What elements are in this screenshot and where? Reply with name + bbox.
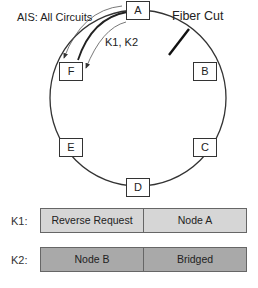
k2-label: K2:: [11, 254, 28, 266]
node-a: A: [126, 1, 150, 20]
k1-k2-label: K1, K2: [105, 36, 138, 48]
fiber-cut-slash-icon: [169, 29, 189, 55]
fiber-cut-label: Fiber Cut: [172, 9, 223, 23]
node-d: D: [126, 178, 150, 197]
k2-byte-bar: Node B Bridged: [40, 247, 247, 272]
ais-label: AIS: All Circuits: [17, 11, 92, 23]
node-f: F: [59, 62, 83, 81]
k2-node-cell: Node B: [41, 248, 143, 271]
node-e: E: [59, 138, 83, 157]
k1-label: K1:: [11, 215, 28, 227]
node-b: B: [193, 62, 217, 81]
k1-byte-bar: Reverse Request Node A: [40, 208, 247, 233]
k2-status-cell: Bridged: [143, 248, 246, 271]
k1-request-cell: Reverse Request: [41, 209, 143, 232]
node-c: C: [193, 138, 217, 157]
k1-node-cell: Node A: [143, 209, 246, 232]
